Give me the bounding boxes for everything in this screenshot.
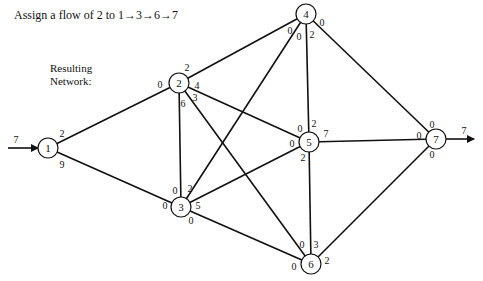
capacity-label: 4 [195,80,200,91]
node-label: 3 [178,201,184,213]
edge-3-5 [181,142,309,207]
capacity-label: 0 [430,119,435,130]
node-label: 4 [303,8,309,20]
capacity-label: 0 [290,138,295,149]
capacity-label: 2 [301,152,306,163]
sink-flow-label: 7 [462,125,467,136]
node-label: 2 [176,77,182,89]
capacity-label: 0 [297,31,302,42]
capacity-label: 0 [300,239,305,250]
capacity-label: 3 [193,92,198,103]
node-label: 6 [308,258,314,270]
capacity-label: 2 [185,62,190,73]
edge-1-2 [48,83,179,148]
edge-1-3 [48,148,181,207]
edge-3-6 [181,207,311,264]
node-label: 5 [306,136,312,148]
capacity-label: 2 [188,183,193,194]
edge-2-5 [179,83,309,142]
node-7: 7 [426,129,446,149]
capacity-label: 0 [189,215,194,226]
capacity-label: 0 [288,25,293,36]
capacity-label: 2 [60,128,65,139]
node-6: 6 [301,254,321,274]
node-label: 7 [433,133,439,145]
capacity-labels-layer: 2902436002020072000002500302 [60,17,435,272]
node-1: 1 [38,138,58,158]
node-5: 5 [299,132,319,152]
capacity-label: 0 [320,17,325,28]
edge-2-6 [179,83,311,264]
capacity-label: 3 [314,239,319,250]
network-diagram: 7 7 1234567 2902436002020072000002500302 [0,0,483,281]
node-4: 4 [296,4,316,24]
source-flow-label: 7 [14,134,19,145]
capacity-label: 5 [196,200,201,211]
capacity-label: 6 [181,98,186,109]
capacity-label: 7 [324,128,329,139]
capacity-label: 2 [310,29,315,40]
capacity-label: 0 [417,130,422,141]
edge-6-7 [311,139,436,264]
edge-4-7 [306,14,436,139]
capacity-label: 0 [292,261,297,272]
capacity-label: 2 [325,255,330,266]
capacity-label: 9 [60,159,65,170]
capacity-label: 0 [173,185,178,196]
edge-5-6 [309,142,311,264]
node-2: 2 [169,73,189,93]
edges-layer [48,14,436,264]
node-label: 1 [45,142,51,154]
capacity-label: 0 [298,123,303,134]
capacity-label: 2 [312,118,317,129]
capacity-label: 0 [430,149,435,160]
capacity-label: 0 [158,79,163,90]
capacity-label: 0 [163,200,168,211]
